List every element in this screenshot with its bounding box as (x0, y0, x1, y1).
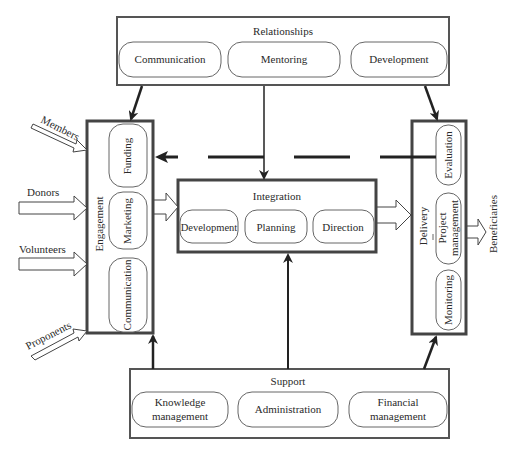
arrow-integration-delivery (377, 200, 411, 230)
arrow-volunteers (19, 252, 87, 276)
integration-item-direction: Direction (322, 221, 364, 233)
support-box: Support Knowledge management Administrat… (130, 369, 449, 438)
delivery-item-project: Project (436, 212, 448, 243)
integration-item-development: Development (181, 222, 238, 233)
relationships-box: Relationships Communication Mentoring De… (117, 17, 449, 85)
support-item-knowledge: Knowledge (155, 396, 206, 408)
input-label-volunteers: Volunteers (19, 243, 66, 255)
delivery-item-evaluation: Evaluation (442, 131, 454, 179)
arrow-relationships-delivery (425, 86, 437, 119)
relationships-title: Relationships (253, 25, 313, 37)
relationships-item-mentoring: Mentoring (261, 53, 308, 65)
arrow-support-delivery (424, 337, 436, 369)
integration-box: Integration Development Planning Directi… (178, 180, 376, 252)
arrow-relationships-engagement (131, 86, 142, 119)
delivery-title: Delivery (417, 206, 429, 245)
arrow-engagement-integration (154, 193, 178, 221)
delivery-box: Delivery Evaluation Project management M… (412, 121, 466, 334)
framework-diagram: Relationships Communication Mentoring De… (0, 0, 517, 458)
support-title: Support (271, 375, 306, 387)
engagement-box: Engagement Funding Marketing Communicati… (87, 121, 153, 333)
delivery-item-management: management (448, 200, 460, 256)
engagement-item-communication: Communication (121, 259, 133, 330)
support-item-knowledge-management: management (152, 410, 208, 422)
integration-item-planning: Planning (256, 221, 296, 233)
output-label-beneficiaries: Beneficiaries (487, 195, 499, 253)
engagement-item-funding: Funding (121, 137, 133, 174)
support-item-financial-management: management (370, 410, 426, 422)
arrow-donors (19, 196, 87, 220)
support-item-financial: Financial (378, 396, 419, 408)
engagement-item-marketing: Marketing (121, 198, 133, 244)
relationships-item-communication: Communication (135, 53, 206, 65)
support-item-administration: Administration (255, 403, 322, 415)
relationships-item-development: Development (369, 53, 428, 65)
engagement-title: Engagement (93, 197, 105, 252)
input-label-donors: Donors (27, 186, 59, 198)
arrow-delivery-beneficiaries (467, 219, 486, 245)
delivery-item-monitoring: Monitoring (442, 274, 454, 325)
integration-title: Integration (253, 190, 302, 202)
